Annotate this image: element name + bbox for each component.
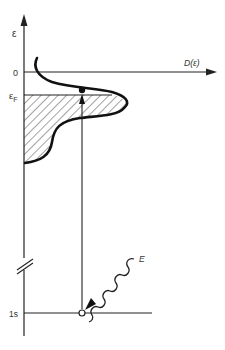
axis-break-icon: [17, 259, 33, 274]
photon-energy-label: E: [139, 254, 145, 264]
photon-arrow-head-icon: [85, 298, 96, 310]
dos-axis-arrow-icon: [206, 69, 217, 76]
fermi-label: εF: [9, 90, 18, 103]
dos-axis: [24, 69, 217, 76]
energy-axis: [21, 14, 28, 336]
energy-axis-label: ε: [12, 28, 17, 39]
excited-electron-dot-icon: [79, 87, 85, 93]
dos-axis-label: D(ε): [184, 58, 200, 68]
occupied-states-hatch: [24, 95, 134, 165]
zero-label: 0: [13, 68, 18, 78]
dos-diagram: ε 0 εF D(ε) 1s E: [0, 0, 225, 350]
core-hole-icon: [79, 310, 85, 316]
core-level-label: 1s: [9, 309, 18, 319]
transition-arrow: [79, 87, 85, 309]
energy-axis-arrow-icon: [21, 14, 28, 26]
